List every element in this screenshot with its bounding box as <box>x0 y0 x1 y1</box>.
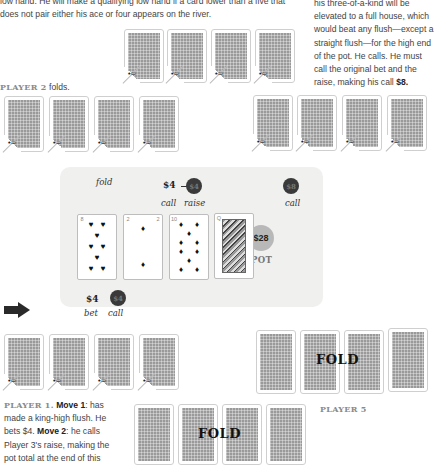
player3-raise-chip: $4 <box>186 178 202 194</box>
card-back: ♠▭ <box>94 96 134 152</box>
card-back: ♠▭ <box>139 96 179 152</box>
community-card-10-diamonds: 10 ♦♦ ♦ ♦♦ ♦♦ ♦ ♦♦ <box>169 214 209 280</box>
player3-call-amount: $4 <box>163 180 176 190</box>
card-back: ♠▭ <box>167 29 207 83</box>
card-back: ♠▭ <box>49 96 89 152</box>
card-back: ♠▭ <box>253 95 293 151</box>
card-back: ♠▭ <box>211 29 251 83</box>
community-card-queen-diamonds: Q <box>214 213 254 279</box>
card-back <box>134 404 174 465</box>
intro-line-2: does not pair either his ace or four app… <box>0 8 300 21</box>
card-back <box>388 328 428 392</box>
card-back: ♠▭ <box>4 96 44 152</box>
queen-portrait <box>222 219 246 273</box>
community-card-2-diamonds: 2 2 ♦ ♦ <box>123 214 163 280</box>
card-back: ♠▭ <box>4 334 44 390</box>
player3-raise-label: raise <box>184 198 205 208</box>
community-card-8-hearts: 8 ♥♥ ♥ ♥♥ ♥ ♥♥ <box>77 214 117 280</box>
card-back <box>256 330 296 394</box>
intro-text: low hand. He will make a qualifying low … <box>0 0 300 21</box>
card-back: ♠▭ <box>342 95 382 151</box>
intro-line-1: low hand. He will make a qualifying low … <box>0 0 300 8</box>
player4-call-chip: $8 <box>283 178 299 194</box>
player1-bet-amount: $4 <box>86 294 99 304</box>
card-back <box>266 404 306 465</box>
player5-label: PLAYER 5 <box>320 404 367 414</box>
player5-fold-label: FOLD <box>316 352 359 367</box>
card-back: ♠▭ <box>297 95 337 151</box>
card-back: ♠▭ <box>139 334 179 390</box>
pot-label: POT <box>251 255 272 265</box>
player1-description: PLAYER 1. Move 1: has made a king-high f… <box>4 399 144 465</box>
player4-call-label: call <box>285 198 300 208</box>
player1-call-label: call <box>108 308 123 318</box>
card-back: ♠▭ <box>49 334 89 390</box>
player2-label: PLAYER 2 folds. <box>0 81 70 94</box>
card-back: ♠▭ <box>255 29 295 83</box>
player1-bet-label: bet <box>84 308 98 318</box>
player4-description: his three-of-a-kind will be elevated to … <box>314 0 434 89</box>
player3-call-label: call <box>161 198 176 208</box>
card-back: ♠▭ <box>94 334 134 390</box>
card-back: ♠▭ <box>124 29 164 83</box>
player2-fold-action: fold <box>96 177 112 187</box>
card-back: ♠▭ <box>387 95 427 151</box>
player6-fold-label: FOLD <box>198 426 241 441</box>
current-player-arrow-icon <box>4 302 30 318</box>
player1-call-chip: $4 <box>110 290 126 306</box>
